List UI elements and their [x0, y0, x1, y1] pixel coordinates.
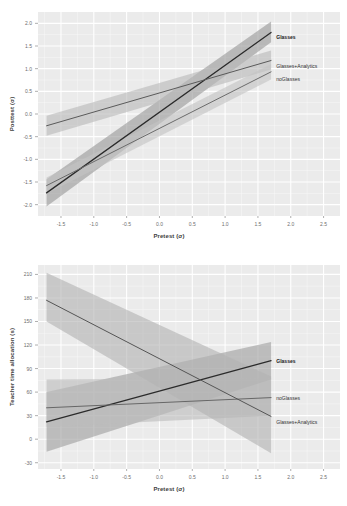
x-tick-label: -1.5	[57, 474, 66, 480]
posttest-svg: -1.5-1.0-0.50.00.51.01.52.02.52.01.51.00…	[0, 0, 347, 253]
figure-container: -1.5-1.0-0.50.00.51.01.52.02.52.01.51.00…	[0, 0, 347, 506]
x-tick-label: -1.5	[57, 221, 66, 227]
y-axis-title: Teacher time allocation (s)	[9, 328, 15, 406]
x-tick-label: -1.0	[89, 474, 98, 480]
x-tick-label: -0.5	[122, 474, 131, 480]
y-tick-label: -30	[25, 460, 32, 466]
x-tick-label: 1.5	[254, 474, 261, 480]
y-tick-label: 0	[29, 436, 32, 442]
y-tick-label: 0.0	[25, 111, 32, 117]
legend-label-glasses-analytics: Glasses+Analytics	[276, 419, 317, 425]
y-axis-title: Posttest (σ)	[9, 97, 15, 132]
y-tick-label: 30	[26, 413, 32, 419]
y-tick-label: 150	[24, 318, 33, 324]
x-tick-label: 2.5	[320, 474, 327, 480]
x-tick-label: 2.5	[320, 221, 327, 227]
y-tick-label: 210	[24, 271, 33, 277]
y-tick-label: 2.0	[25, 20, 32, 26]
y-tick-label: 90	[26, 366, 32, 372]
chart-teacher-time-canvas: -1.5-1.0-0.50.00.51.01.52.02.52101801501…	[0, 253, 347, 506]
y-tick-label: 0.5	[25, 88, 32, 94]
legend-label-glasses-analytics: Glasses+Analytics	[276, 63, 317, 69]
y-tick-label: -1.0	[23, 156, 32, 162]
x-tick-label: 0.0	[156, 221, 163, 227]
legend-label-noglasses: noGlasses	[276, 395, 300, 401]
x-tick-label: 0.5	[189, 474, 196, 480]
y-tick-label: -0.5	[23, 134, 32, 140]
chart-posttest-canvas: -1.5-1.0-0.50.00.51.01.52.02.52.01.51.00…	[0, 0, 347, 253]
legend-label-glasses: Glasses	[276, 34, 295, 40]
x-tick-label: 1.0	[222, 221, 229, 227]
y-tick-label: -1.5	[23, 179, 32, 185]
teacher-time-svg: -1.5-1.0-0.50.00.51.01.52.02.52101801501…	[0, 253, 347, 506]
x-tick-label: 2.0	[287, 474, 294, 480]
y-tick-label: 180	[24, 295, 33, 301]
y-tick-label: 1.0	[25, 66, 32, 72]
y-tick-label: 1.5	[25, 43, 32, 49]
x-tick-label: -0.5	[122, 221, 131, 227]
x-tick-label: 1.5	[254, 221, 261, 227]
x-tick-label: -1.0	[89, 221, 98, 227]
x-axis-title: Pretest (σ)	[153, 486, 184, 492]
legend-label-noglasses: noGlasses	[276, 76, 300, 82]
x-tick-label: 2.0	[287, 221, 294, 227]
x-tick-label: 0.0	[156, 474, 163, 480]
chart-teacher-time: -1.5-1.0-0.50.00.51.01.52.02.52101801501…	[0, 253, 347, 506]
x-tick-label: 1.0	[222, 474, 229, 480]
y-tick-label: -2.0	[23, 202, 32, 208]
chart-posttest: -1.5-1.0-0.50.00.51.01.52.02.52.01.51.00…	[0, 0, 347, 253]
y-tick-label: 60	[26, 389, 32, 395]
y-tick-label: 120	[24, 342, 33, 348]
legend-label-glasses: Glasses	[276, 358, 295, 364]
x-tick-label: 0.5	[189, 221, 196, 227]
x-axis-title: Pretest (σ)	[153, 233, 184, 239]
